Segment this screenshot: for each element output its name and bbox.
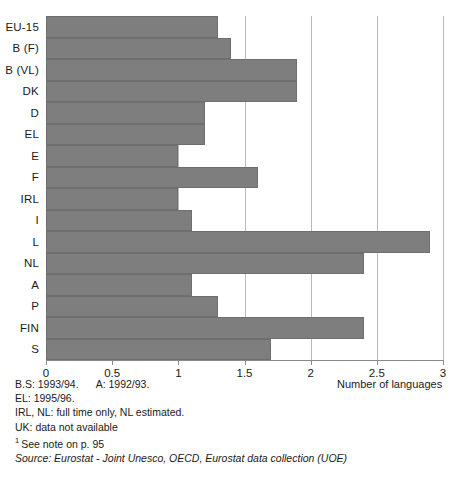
category-label-dk: DK [23, 85, 39, 97]
x-tick-mark [46, 360, 47, 365]
x-tick-mark [311, 360, 312, 365]
category-label-l: L [32, 236, 39, 248]
bar-b-f- [46, 38, 231, 60]
bar-row: B (VL) [46, 59, 443, 81]
bar-e [46, 145, 178, 167]
x-tick-mark [377, 360, 378, 365]
bar-a [46, 274, 192, 296]
bar-el [46, 124, 205, 146]
bar-row: S [46, 339, 443, 361]
footnote-line-2: EL: 1995/96. [15, 391, 445, 405]
bar-irl [46, 188, 178, 210]
bar-eu-15 [46, 16, 218, 38]
footnote-marker: 1 [15, 436, 19, 445]
bar-row: E [46, 145, 443, 167]
category-label-b-vl-: B (VL) [5, 64, 39, 76]
x-tick-mark [245, 360, 246, 365]
x-tick-mark [178, 360, 179, 365]
bar-series: EU-15B (F)B (VL)DKDELEFIRLILNLAPFINS [46, 16, 443, 360]
footnote-1b: A: 1992/93. [96, 378, 150, 390]
category-label-f: F [32, 171, 39, 183]
gridline-3 [443, 16, 444, 360]
bar-row: NL [46, 253, 443, 275]
bar-row: DK [46, 81, 443, 103]
x-tick-mark [112, 360, 113, 365]
bar-b-vl- [46, 59, 297, 81]
source-line: Source: Eurostat - Joint Unesco, OECD, E… [15, 451, 445, 465]
category-label-p: P [31, 300, 39, 312]
bar-row: B (F) [46, 38, 443, 60]
category-label-irl: IRL [21, 193, 40, 205]
plot-area: EU-15B (F)B (VL)DKDELEFIRLILNLAPFINS [46, 16, 443, 360]
bar-nl [46, 253, 364, 275]
footnote-line-5: 1See note on p. 95 [15, 434, 445, 451]
bar-chart-figure: EU-15B (F)B (VL)DKDELEFIRLILNLAPFINS 00.… [0, 0, 464, 481]
category-label-nl: NL [24, 257, 39, 269]
bar-row: EU-15 [46, 16, 443, 38]
bar-row: IRL [46, 188, 443, 210]
category-label-fin: FIN [20, 322, 39, 334]
category-label-d: D [30, 107, 39, 119]
category-label-b-f-: B (F) [12, 42, 39, 54]
bar-p [46, 296, 218, 318]
bar-row: FIN [46, 317, 443, 339]
bar-s [46, 339, 271, 361]
x-tick-mark [443, 360, 444, 365]
footnote-1a: B.S: 1993/94. [15, 378, 79, 390]
footnote-line-3: IRL, NL: full time only, NL estimated. [15, 405, 445, 419]
bar-row: P [46, 296, 443, 318]
bar-i [46, 210, 192, 232]
bar-row: I [46, 210, 443, 232]
bar-row: F [46, 167, 443, 189]
footnotes-block: B.S: 1993/94.A: 1992/93. EL: 1995/96. IR… [15, 377, 445, 465]
bar-row: A [46, 274, 443, 296]
bar-f [46, 167, 258, 189]
bar-d [46, 102, 205, 124]
bar-row: L [46, 231, 443, 253]
category-label-s: S [31, 343, 39, 355]
bar-fin [46, 317, 364, 339]
category-label-eu-15: EU-15 [5, 21, 39, 33]
bar-dk [46, 81, 297, 103]
category-label-a: A [31, 279, 39, 291]
bar-l [46, 231, 430, 253]
category-label-e: E [31, 150, 39, 162]
footnote-line-4: UK: data not available [15, 420, 445, 434]
footnote-5-text: See note on p. 95 [21, 437, 104, 449]
category-label-el: EL [25, 128, 39, 140]
category-label-i: I [36, 214, 39, 226]
bar-row: EL [46, 124, 443, 146]
footnote-line-1: B.S: 1993/94.A: 1992/93. [15, 377, 445, 391]
bar-row: D [46, 102, 443, 124]
